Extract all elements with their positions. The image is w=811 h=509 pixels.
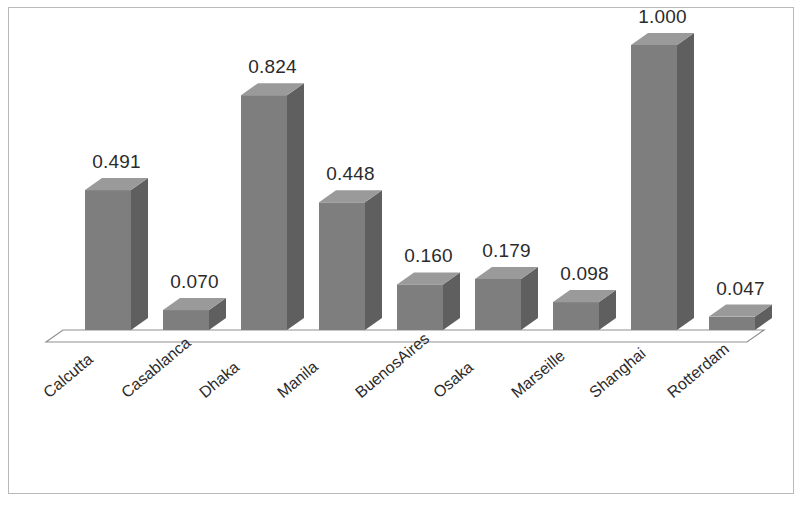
- bar-side-face: [287, 83, 304, 330]
- bar-front-face: [631, 45, 677, 330]
- value-label: 0.160: [404, 245, 453, 267]
- bar-front-face: [553, 302, 599, 330]
- bar-front-face: [319, 202, 365, 330]
- bar-osaka: [475, 267, 538, 330]
- bar-front-face: [163, 310, 209, 330]
- value-label: 0.491: [92, 151, 141, 173]
- bar-casablanca: [163, 298, 226, 330]
- bar-rotterdam: [709, 305, 772, 330]
- bar-side-face: [677, 33, 694, 330]
- bar-manila: [319, 190, 382, 330]
- bar-front-face: [475, 279, 521, 330]
- value-label: 0.448: [326, 163, 375, 185]
- value-label: 0.098: [560, 263, 609, 285]
- bar-side-face: [131, 178, 148, 330]
- bar-front-face: [709, 317, 755, 330]
- value-label: 1.000: [638, 6, 687, 28]
- bar-front-face: [397, 284, 443, 330]
- floor-plane: [46, 330, 764, 342]
- bar-shanghai: [631, 33, 694, 330]
- bar-calcutta: [85, 178, 148, 330]
- value-label: 0.070: [170, 271, 219, 293]
- bar-dhaka: [241, 83, 304, 330]
- value-label: 0.047: [716, 278, 765, 300]
- bar-buenosaires: [397, 272, 460, 330]
- bar-marseille: [553, 290, 616, 330]
- bar-front-face: [85, 190, 131, 330]
- bar-front-face: [241, 95, 287, 330]
- chart-screenshot: 0.4910.0700.8240.4480.1600.1790.0981.000…: [0, 0, 811, 509]
- value-label: 0.824: [248, 56, 297, 78]
- bar-side-face: [365, 190, 382, 330]
- value-label: 0.179: [482, 240, 531, 262]
